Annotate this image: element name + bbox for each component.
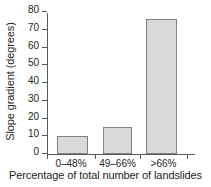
x-tick-sep-3 — [187, 155, 188, 159]
y-tick-10: 10 — [42, 135, 47, 136]
y-tick-0: 0 — [42, 153, 47, 154]
plot-area: 0 10 20 30 40 50 60 70 80 — [47, 13, 195, 155]
y-tick-label-10: 10 — [28, 128, 39, 140]
bar-category-0 — [57, 136, 88, 154]
y-tick-40: 40 — [42, 82, 47, 83]
bar-category-1 — [103, 127, 132, 154]
x-axis-title: Percentage of total number of landslides — [0, 168, 211, 182]
y-tick-label-30: 30 — [28, 93, 39, 105]
y-tick-50: 50 — [42, 64, 47, 65]
bar-category-2 — [146, 19, 177, 154]
y-tick-70: 70 — [42, 29, 47, 30]
bar-chart-figure: Slope gradient (degrees) 0 10 20 30 40 5… — [0, 0, 211, 187]
y-tick-label-40: 40 — [28, 75, 39, 87]
y-tick-80: 80 — [42, 11, 47, 12]
y-tick-label-0: 0 — [33, 146, 39, 158]
y-tick-label-20: 20 — [28, 111, 39, 123]
y-tick-30: 30 — [42, 100, 47, 101]
y-tick-label-60: 60 — [28, 40, 39, 52]
y-tick-60: 60 — [42, 47, 47, 48]
y-tick-label-80: 80 — [28, 4, 39, 16]
y-tick-20: 20 — [42, 118, 47, 119]
y-tick-label-70: 70 — [28, 22, 39, 34]
y-axis-title: Slope gradient (degrees) — [2, 4, 18, 159]
y-tick-label-50: 50 — [28, 57, 39, 69]
